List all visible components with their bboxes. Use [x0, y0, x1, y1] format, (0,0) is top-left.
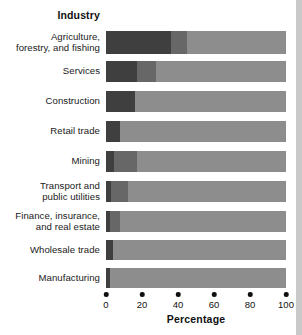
page-right-margin-strip	[296, 0, 302, 335]
bar-segment	[110, 211, 121, 232]
x-tick-label: 20	[137, 299, 148, 310]
industry-axis-title: Industry	[57, 9, 100, 21]
category-label: Finance, insurance,and real estate	[0, 210, 100, 233]
stacked-bar-chart: Industry Agriculture,forestry, and fishi…	[0, 0, 296, 335]
bar-segment	[137, 61, 157, 82]
bar-row	[106, 151, 286, 172]
category-label: Wholesale trade	[0, 244, 100, 255]
bar-segment	[106, 240, 113, 260]
category-label: Agriculture,forestry, and fishing	[0, 31, 100, 54]
category-label-column: Industry Agriculture,forestry, and fishi…	[0, 0, 104, 290]
category-label-line: forestry, and fishing	[0, 42, 100, 53]
category-label-line: Mining	[0, 155, 100, 166]
category-label: Services	[0, 65, 100, 76]
bar-segment	[128, 181, 286, 202]
category-label-line: Transport and	[0, 180, 100, 191]
bar-row	[106, 268, 286, 288]
category-label-line: Wholesale trade	[0, 244, 100, 255]
x-tick-label: 40	[173, 299, 184, 310]
category-label-line: Services	[0, 65, 100, 76]
bar-segment	[106, 61, 137, 82]
bar-segment	[106, 91, 135, 112]
x-tick-label: 100	[278, 299, 294, 310]
bar-segment	[135, 91, 286, 112]
category-label: Manufacturing	[0, 272, 100, 283]
bar-row	[106, 91, 286, 112]
bar-segment	[110, 268, 286, 288]
bar-row	[106, 181, 286, 202]
bar-segment	[137, 151, 286, 172]
bar-segment	[120, 121, 286, 142]
x-tick-dot	[284, 292, 289, 297]
bar-segment	[113, 240, 286, 260]
category-label-line: Construction	[0, 95, 100, 106]
bar-row	[106, 240, 286, 260]
bar-segment	[120, 211, 286, 232]
category-label-line: Finance, insurance,	[0, 210, 100, 221]
bar-segment	[106, 121, 120, 142]
x-tick-label: 0	[103, 299, 108, 310]
x-tick-label: 60	[209, 299, 220, 310]
category-label-line: and real estate	[0, 221, 100, 232]
bar-segment	[111, 181, 127, 202]
bar-segment	[171, 31, 187, 54]
x-tick-dot	[248, 292, 253, 297]
x-tick-label: 80	[245, 299, 256, 310]
x-tick-dot	[212, 292, 217, 297]
category-label-line: Agriculture,	[0, 31, 100, 42]
category-label-line: Manufacturing	[0, 272, 100, 283]
category-label: Construction	[0, 95, 100, 106]
x-tick-dot	[104, 292, 109, 297]
x-tick-dot	[140, 292, 145, 297]
category-label-line: public utilities	[0, 191, 100, 202]
x-axis: Percentage 020406080100	[106, 290, 286, 335]
plot-area	[106, 0, 286, 290]
bar-segment	[156, 61, 286, 82]
bar-row	[106, 211, 286, 232]
bar-segment	[114, 151, 137, 172]
x-tick-dot	[176, 292, 181, 297]
bar-segment	[106, 31, 171, 54]
category-label: Mining	[0, 155, 100, 166]
bar-segment	[106, 151, 114, 172]
category-label: Transport andpublic utilities	[0, 180, 100, 203]
category-label: Retail trade	[0, 125, 100, 136]
bar-row	[106, 121, 286, 142]
bar-row	[106, 31, 286, 54]
category-label-line: Retail trade	[0, 125, 100, 136]
bar-row	[106, 61, 286, 82]
x-axis-title: Percentage	[106, 313, 286, 325]
bar-segment	[187, 31, 286, 54]
